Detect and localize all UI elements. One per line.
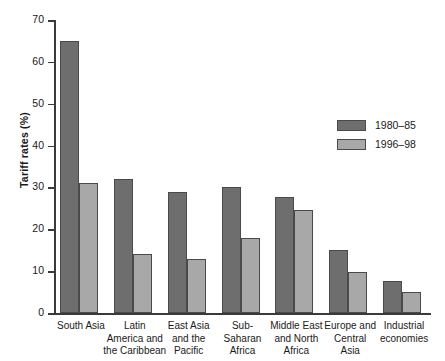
bar-group [329, 20, 367, 313]
y-axis-line [54, 20, 56, 313]
bar-group [168, 20, 206, 313]
y-axis-tick-label: 60 [32, 55, 44, 67]
bar-group [275, 20, 313, 313]
bar [168, 192, 187, 313]
bar-group [222, 20, 260, 313]
y-axis-tick: 50 [48, 104, 54, 106]
y-axis-title: Tariff rates (%) [16, 0, 32, 300]
plot-area: 010203040506070 South AsiaLatin America … [54, 20, 431, 313]
bar [241, 238, 260, 313]
legend-item: 1980–85 [337, 117, 441, 133]
bar [79, 183, 98, 313]
y-axis-tick: 70 [48, 20, 54, 22]
x-axis-category-label: Industrial economies [371, 320, 437, 345]
y-axis-tick-label: 70 [32, 13, 44, 25]
bar-group [114, 20, 152, 313]
bar [348, 272, 367, 313]
y-axis-tick-label: 30 [32, 180, 44, 192]
y-axis-tick: 30 [48, 187, 54, 189]
y-axis-tick-label: 0 [38, 306, 44, 318]
y-axis-tick: 60 [48, 62, 54, 64]
y-axis-tick-label: 50 [32, 97, 44, 109]
bar [294, 210, 313, 313]
y-axis-tick: 10 [48, 271, 54, 273]
y-axis-tick: 0 [48, 313, 54, 315]
bar [114, 179, 133, 313]
legend-color-swatch [337, 139, 366, 150]
y-axis-tick-label: 40 [32, 139, 44, 151]
bar-group [60, 20, 98, 313]
tariff-rates-bar-chart: Tariff rates (%) 010203040506070 South A… [0, 0, 445, 361]
bar [187, 259, 206, 313]
y-axis-tick: 40 [48, 146, 54, 148]
bar [133, 254, 152, 313]
x-axis-line [54, 313, 431, 315]
bar [222, 187, 241, 313]
bar [383, 281, 402, 313]
legend-color-swatch [337, 120, 366, 131]
bar [60, 41, 79, 313]
chart-legend: 1980–851996–98 [337, 117, 441, 155]
bar [329, 250, 348, 313]
bar [275, 197, 294, 313]
bar [402, 292, 421, 313]
legend-item-label: 1980–85 [375, 119, 416, 131]
y-axis-tick: 20 [48, 229, 54, 231]
y-axis-tick-label: 20 [32, 222, 44, 234]
legend-item: 1996–98 [337, 136, 441, 152]
bar-group [383, 20, 421, 313]
legend-item-label: 1996–98 [375, 138, 416, 150]
y-axis-tick-label: 10 [32, 264, 44, 276]
